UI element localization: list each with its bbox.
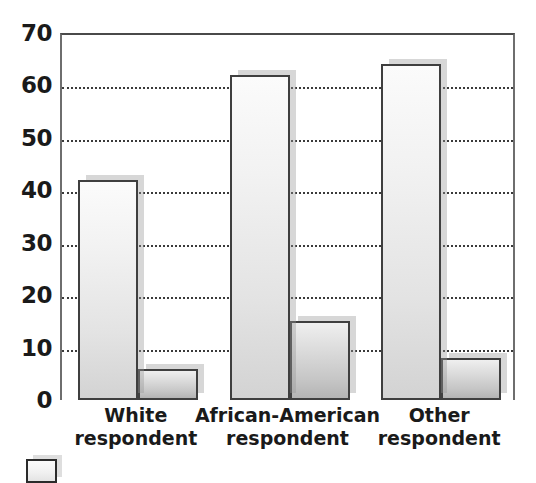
x-axis-category-label-line: Other <box>344 404 534 427</box>
y-axis-tick-label: 10 <box>6 336 52 359</box>
x-axis-category-labels: WhiterespondentAfrican-Americanresponden… <box>60 404 515 462</box>
bars-layer <box>62 35 513 400</box>
bar <box>138 369 198 400</box>
legend-swatch-series-1 <box>26 459 57 483</box>
chart-legend <box>26 459 65 483</box>
bar <box>230 75 290 400</box>
bar <box>441 358 501 400</box>
y-axis-tick-label: 60 <box>6 74 52 97</box>
x-axis-category-label-line: respondent <box>344 427 534 450</box>
bar-group <box>230 35 350 400</box>
y-axis-tick-label: 50 <box>6 126 52 149</box>
bar <box>381 64 441 400</box>
y-axis-tick-label: 70 <box>6 22 52 45</box>
y-axis-tick-label: 20 <box>6 284 52 307</box>
bar-group <box>381 35 501 400</box>
bar <box>78 180 138 400</box>
bar-group <box>78 35 198 400</box>
x-axis-category-label: Otherrespondent <box>344 404 534 450</box>
y-axis-tick-label: 40 <box>6 179 52 202</box>
bar <box>290 321 350 400</box>
plot-area <box>60 33 515 400</box>
y-axis-tick-label: 30 <box>6 231 52 254</box>
